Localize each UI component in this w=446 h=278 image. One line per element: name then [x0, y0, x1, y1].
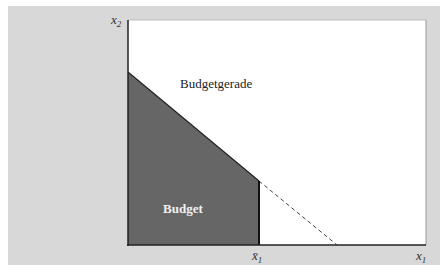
budget-line-label: Budgetgerade	[180, 76, 252, 91]
x-axis-label: x1	[415, 248, 426, 265]
budget-diagram: x2 x1 x̄1 Budgetgerade Budget	[0, 0, 446, 278]
budget-region-label: Budget	[163, 201, 203, 216]
x1-bar-label: x̄1	[251, 248, 262, 265]
y-axis-label: x2	[110, 12, 122, 29]
